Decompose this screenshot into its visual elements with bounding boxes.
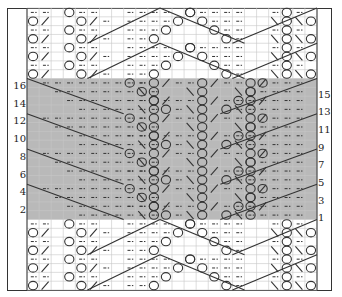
yarn-over-icon [306,229,315,237]
k2tog-icon [90,229,97,237]
ssk-icon [295,246,302,254]
yarn-over-icon [306,52,315,60]
yarn-over-icon [306,246,315,254]
yarn-over-icon [77,52,86,60]
yarn-over-icon [28,17,37,25]
knitting-chart [0,0,342,297]
yarn-over-icon [28,246,37,254]
yarn-over-icon [77,70,86,78]
k2tog-icon [42,282,49,290]
yarn-over-icon [282,237,291,245]
yarn-over-icon [65,237,74,245]
row-number-14: 14 [10,99,26,109]
yarn-over-icon [65,61,74,69]
row-number-4: 4 [10,187,26,197]
yarn-over-icon [173,17,182,25]
yarn-over-icon [77,246,86,254]
yarn-over-icon [306,70,315,78]
yarn-over-icon [77,264,86,272]
row-number-11: 11 [318,125,334,135]
yarn-over-icon [282,61,291,69]
k2tog-icon [42,17,49,25]
ssk-icon [295,264,302,272]
yarn-over-icon [77,281,86,289]
k2tog-icon [42,70,49,78]
ssk-icon [295,70,302,78]
yarn-over-icon [161,61,170,69]
yarn-over-icon [149,35,158,43]
yarn-over-icon [28,229,37,237]
yarn-over-icon [161,237,170,245]
yarn-over-icon [306,281,315,289]
yarn-over-icon [186,220,195,228]
yarn-over-icon [282,246,291,254]
yarn-over-icon [149,281,158,289]
yarn-over-icon [161,26,170,34]
yarn-over-icon [77,17,86,25]
yarn-over-icon [186,8,195,16]
yarn-over-icon [65,26,74,34]
yarn-over-icon [306,35,315,43]
yarn-over-icon [173,52,182,60]
yarn-over-icon [306,264,315,272]
yarn-over-icon [282,220,291,228]
yarn-over-icon [282,255,291,263]
k2tog-icon [42,246,49,254]
yarn-over-icon [282,26,291,34]
yarn-over-icon [65,8,74,16]
k2tog-icon [90,52,97,60]
row-number-3: 3 [318,196,334,206]
k2tog-icon [42,52,49,60]
ssk-icon [295,229,302,237]
yarn-over-icon [65,255,74,263]
yarn-over-icon [282,8,291,16]
yarn-over-icon [282,273,291,281]
yarn-over-icon [186,43,195,51]
k2tog-icon [90,17,97,25]
row-number-10: 10 [10,134,26,144]
row-number-9: 9 [318,143,334,153]
ssk-icon [271,246,278,254]
yarn-over-icon [282,70,291,78]
yarn-over-icon [173,264,182,272]
k2tog-icon [90,264,97,272]
row-number-13: 13 [318,107,334,117]
yarn-over-icon [149,246,158,254]
yarn-over-icon [65,273,74,281]
k2tog-icon [42,35,49,43]
ssk-icon [295,282,302,290]
k2tog-icon [42,264,49,272]
yarn-over-icon [28,281,37,289]
yarn-over-icon [282,281,291,289]
k2tog-icon [42,229,49,237]
row-number-15: 15 [318,90,334,100]
ssk-icon [295,35,302,43]
ssk-icon [271,35,278,43]
yarn-over-icon [65,220,74,228]
ssk-icon [295,17,302,25]
yarn-over-icon [65,43,74,51]
row-number-12: 12 [10,116,26,126]
yarn-over-icon [77,229,86,237]
row-number-16: 16 [10,81,26,91]
row-number-7: 7 [318,160,334,170]
ssk-icon [271,282,278,290]
row-number-5: 5 [318,178,334,188]
row-number-8: 8 [10,152,26,162]
yarn-over-icon [161,273,170,281]
row-number-1: 1 [318,213,334,223]
yarn-over-icon [282,35,291,43]
yarn-over-icon [173,229,182,237]
yarn-over-icon [186,255,195,263]
yarn-over-icon [28,70,37,78]
yarn-over-icon [77,35,86,43]
row-number-2: 2 [10,205,26,215]
yarn-over-icon [28,264,37,272]
yarn-over-icon [149,70,158,78]
row-number-6: 6 [10,170,26,180]
yarn-over-icon [282,43,291,51]
yarn-over-icon [28,35,37,43]
yarn-over-icon [306,17,315,25]
ssk-icon [271,70,278,78]
ssk-icon [295,52,302,60]
